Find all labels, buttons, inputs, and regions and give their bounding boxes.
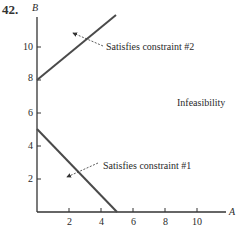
x-tick-label: 6 <box>131 217 136 227</box>
y-tick-label: 8 <box>28 73 33 83</box>
y-tick-label: 10 <box>23 42 33 52</box>
y-tick-label: 4 <box>28 141 33 151</box>
plot-area <box>0 0 240 228</box>
constraint-2-arrow <box>73 33 103 46</box>
y-tick-label: 2 <box>28 174 33 184</box>
constraint-2-line <box>37 15 116 80</box>
y-axis-label: B <box>32 3 38 13</box>
problem-number: 42. <box>2 3 18 16</box>
constraint-1-annotation: Satisfies constraint #1 <box>103 161 191 171</box>
constraint-2-annotation: Satisfies constraint #2 <box>106 42 194 52</box>
y-tick-label: 6 <box>28 108 33 118</box>
x-tick-label: 4 <box>99 217 104 227</box>
infeasibility-label: Infeasibility <box>177 98 225 108</box>
x-axis-label: A <box>229 207 235 217</box>
constraint-graph-figure: 42. B A 2 4 6 8 10 2 4 6 8 10 Satisfies … <box>0 0 240 228</box>
x-tick-label: 10 <box>192 217 202 227</box>
x-tick-label: 8 <box>163 217 168 227</box>
x-tick-label: 2 <box>67 217 72 227</box>
